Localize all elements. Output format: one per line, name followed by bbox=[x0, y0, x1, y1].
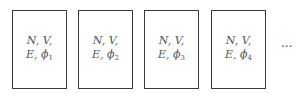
system-box-4: N, V, E, ϕ4 bbox=[211, 10, 266, 89]
box-label-line1: N, V, bbox=[27, 34, 52, 48]
box-label-line1: N, V, bbox=[93, 34, 118, 48]
system-box-3: N, V, E, ϕ3 bbox=[144, 10, 199, 89]
system-box-2: N, V, E, ϕ2 bbox=[78, 10, 133, 89]
continuation-ellipsis: ··· bbox=[281, 40, 292, 54]
box-label-line1: N, V, bbox=[226, 34, 251, 48]
box-label-line2: E, ϕ2 bbox=[92, 48, 119, 65]
box-label-line1: N, V, bbox=[159, 34, 184, 48]
system-box-1: N, V, E, ϕ1 bbox=[12, 10, 67, 89]
box-label-line2: E, ϕ4 bbox=[225, 48, 252, 65]
box-label-line2: E, ϕ3 bbox=[158, 48, 185, 65]
box-label-line2: E, ϕ1 bbox=[26, 48, 53, 65]
